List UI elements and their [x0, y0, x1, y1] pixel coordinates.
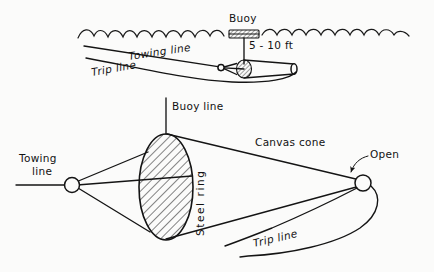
- trip-line-label-bottom: Trip line: [252, 227, 299, 249]
- figure-page: Buoy 5 - 10 ft Towing line Trip line: [0, 0, 434, 272]
- towing-line-label-top: Towing line: [128, 41, 192, 62]
- buoy-line-label: Buoy line: [172, 100, 223, 112]
- open-end-ring: [355, 175, 371, 191]
- towing-line-label-bottom-1: Towing: [18, 152, 57, 164]
- towing-line-label-bottom-2: line: [32, 165, 52, 177]
- net-assembly-top: [218, 60, 297, 78]
- steel-ring-label: Steel ring: [194, 169, 206, 236]
- towing-ring: [65, 178, 80, 193]
- canvas-cone-label: Canvas cone: [255, 136, 326, 148]
- open-leader-arrow: [351, 156, 368, 172]
- canvas-cone: [76, 134, 360, 239]
- net-rig-diagram: Buoy 5 - 10 ft Towing line Trip line: [0, 0, 434, 272]
- buoy-label: Buoy: [229, 12, 257, 24]
- steel-ring: [139, 134, 193, 240]
- trip-line-label-top: Trip line: [90, 58, 137, 78]
- open-label: Open: [370, 148, 399, 160]
- buoy-float: [229, 30, 259, 38]
- depth-label: 5 - 10 ft: [249, 39, 293, 51]
